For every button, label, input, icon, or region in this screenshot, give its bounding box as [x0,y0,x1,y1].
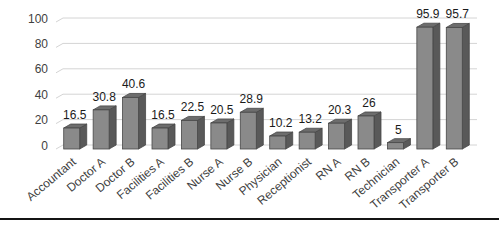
data-label: 5 [395,123,402,137]
bar-nurse-b[interactable] [240,112,256,149]
data-label: 13.2 [298,112,322,126]
bar-rn-b[interactable] [374,112,381,149]
y-axis-tick-label: 60 [35,62,49,76]
data-label: 26 [362,96,376,110]
chart-figure: 02040608010016.5Accountant30.8Doctor A40… [0,0,499,231]
bar-transporter-b[interactable] [446,27,462,149]
bar-facilities-b[interactable] [181,120,197,149]
bar-doctor-a[interactable] [109,106,116,149]
bar-rn-b[interactable] [358,116,374,149]
data-label: 28.9 [240,92,264,106]
bar-technician[interactable] [387,143,403,149]
bar-rn-a[interactable] [345,119,352,149]
data-label: 30.8 [92,90,116,104]
bar-nurse-b[interactable] [256,108,263,149]
bottom-separator-line [0,218,499,220]
bar-nurse-a[interactable] [211,123,227,149]
bar-nurse-a[interactable] [227,119,234,149]
data-label: 20.3 [328,103,352,117]
bar-doctor-a[interactable] [93,110,109,149]
bar-receptionist[interactable] [299,132,315,149]
data-label: 40.6 [122,77,146,91]
y-axis-tick-label: 40 [35,88,49,102]
bar-facilities-b[interactable] [197,116,204,149]
bar-rn-a[interactable] [329,123,345,149]
data-label: 20.5 [210,103,234,117]
bar-transporter-a[interactable] [417,27,433,149]
bar-transporter-a[interactable] [433,23,440,149]
y-axis-tick-label: 20 [35,113,49,127]
y-axis-tick-label: 0 [41,139,48,153]
bar-chart-svg[interactable]: 02040608010016.5Accountant30.8Doctor A40… [0,0,499,231]
bar-transporter-b[interactable] [462,23,469,149]
data-label: 16.5 [63,108,87,122]
bar-physician[interactable] [270,136,286,149]
bar-facilities-a[interactable] [152,128,168,149]
data-label: 16.5 [151,108,175,122]
y-axis-tick-label: 80 [35,37,49,51]
y-axis-tick-label: 100 [28,12,48,26]
data-label: 95.7 [446,7,470,21]
bar-doctor-b[interactable] [123,97,139,149]
bar-doctor-b[interactable] [139,93,146,149]
bar-accountant[interactable] [64,128,80,149]
data-label: 10.2 [269,116,293,130]
data-label: 22.5 [181,100,205,114]
data-label: 95.9 [416,7,440,21]
